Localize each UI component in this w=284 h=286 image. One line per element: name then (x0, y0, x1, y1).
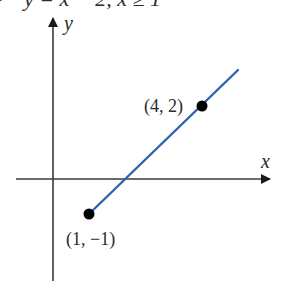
point-start-label: (1, −1) (66, 229, 115, 250)
graph-figure: • y = x − 2, x ≥ 1 x y (4, 2) (1, −1) (0, 0, 284, 286)
graph-canvas: • y = x − 2, x ≥ 1 x y (4, 2) (1, −1) (0, 0, 284, 286)
point-mid-label: (4, 2) (144, 96, 183, 117)
y-axis-label: y (62, 12, 73, 35)
point-start-marker (84, 209, 95, 220)
caption-equation: y = x − 2, x ≥ 1 (22, 0, 161, 11)
function-line (89, 70, 238, 214)
x-axis-label: x (260, 150, 270, 172)
point-mid-marker (197, 101, 208, 112)
caption-bullet: • (0, 0, 4, 11)
